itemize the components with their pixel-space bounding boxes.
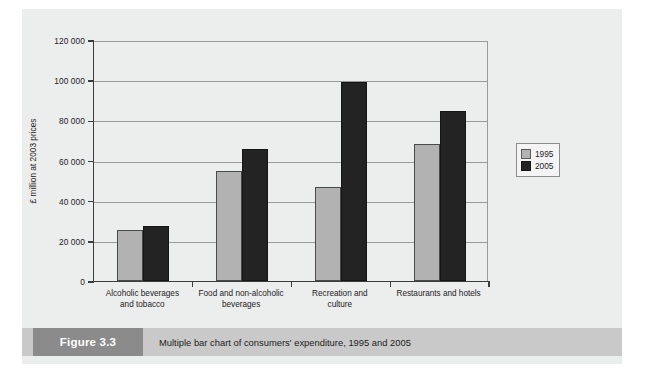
y-axis-tick: [88, 80, 94, 81]
gridline: [94, 41, 488, 42]
plot-area: 020 00040 00060 00080 000100 000120 000: [93, 41, 488, 282]
bar-1995-1: [117, 230, 143, 281]
x-axis-tick: [192, 281, 193, 287]
legend-label-2005: 2005: [535, 161, 553, 171]
y-axis-tick: [88, 241, 94, 242]
bar-2005-3: [341, 82, 367, 281]
y-axis-tick-label: 80 000: [59, 116, 85, 126]
legend-swatch-1995-icon: [521, 149, 531, 159]
y-axis-tick: [88, 281, 94, 282]
x-axis-tick: [291, 281, 292, 287]
bar-2005-2: [242, 149, 268, 281]
gridline: [94, 81, 488, 82]
legend-label-1995: 1995: [535, 149, 553, 159]
gridline: [94, 121, 488, 122]
y-axis-tick: [88, 121, 94, 122]
bar-1995-4: [414, 144, 440, 281]
legend-item-2005: 2005: [521, 160, 553, 172]
y-axis-tick: [88, 40, 94, 41]
y-axis-tick-label: 0: [80, 277, 85, 287]
category-label-line: Restaurants and hotels: [380, 289, 498, 300]
y-axis-title: £ million at 2003 prices: [28, 119, 38, 204]
chart-legend: 1995 2005: [516, 143, 560, 177]
category-label-4: Restaurants and hotels: [380, 289, 498, 300]
figure-caption-bar: Figure 3.3 Multiple bar chart of consume…: [22, 328, 622, 356]
category-label-line: culture: [281, 300, 399, 311]
y-axis-tick-label: 100 000: [54, 76, 85, 86]
y-axis-tick-label: 60 000: [59, 157, 85, 167]
bar-2005-1: [143, 226, 169, 281]
y-axis-tick: [88, 161, 94, 162]
figure-number-badge: Figure 3.3: [33, 328, 143, 356]
bar-2005-4: [440, 111, 466, 281]
figure-page: £ million at 2003 prices 020 00040 00060…: [0, 0, 646, 373]
legend-item-1995: 1995: [521, 148, 553, 160]
y-axis-tick-label: 120 000: [54, 36, 85, 46]
figure-caption-text: Multiple bar chart of consumers' expendi…: [159, 328, 411, 356]
y-axis-tick: [88, 201, 94, 202]
y-axis-tick-label: 40 000: [59, 197, 85, 207]
legend-swatch-2005-icon: [521, 161, 531, 171]
y-axis-tick-label: 20 000: [59, 237, 85, 247]
figure-number-label: Figure 3.3: [60, 336, 116, 348]
x-axis-tick: [390, 281, 391, 287]
bar-1995-2: [216, 171, 242, 281]
chart-area: £ million at 2003 prices 020 00040 00060…: [22, 9, 622, 319]
figure-panel: £ million at 2003 prices 020 00040 00060…: [22, 9, 622, 364]
x-axis-tick: [488, 281, 489, 287]
bar-1995-3: [315, 187, 341, 281]
